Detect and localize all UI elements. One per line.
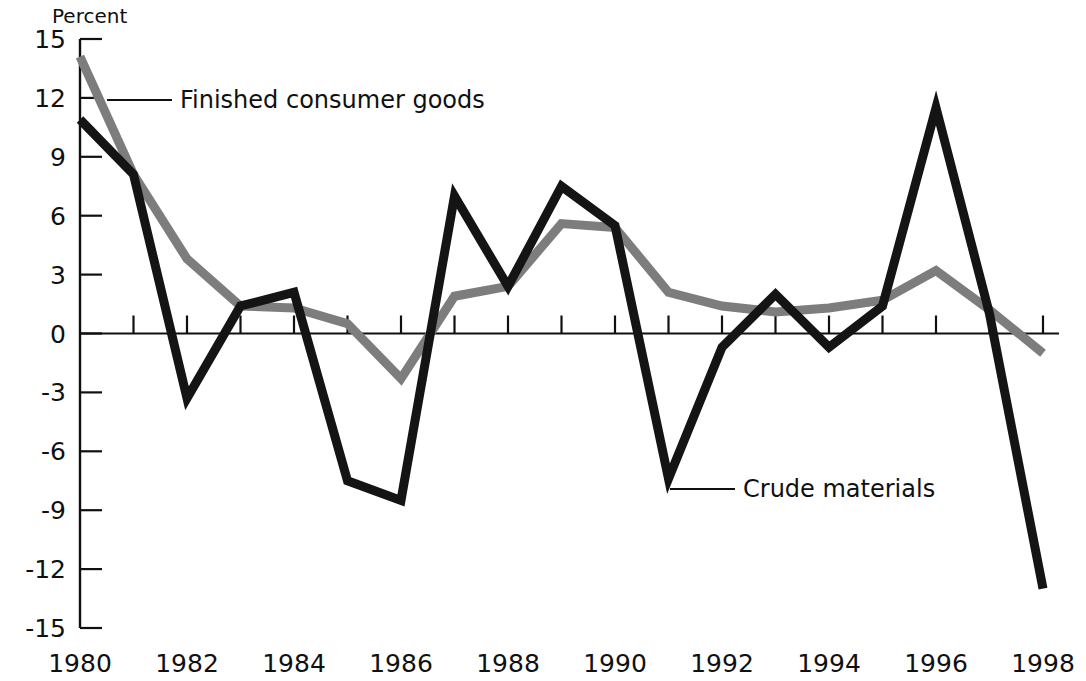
x-tick-label-1998: 1998 <box>1011 649 1075 678</box>
x-tick-label-1986: 1986 <box>369 649 433 678</box>
y-axis-unit-label: Percent <box>52 4 127 28</box>
x-tick-label-1990: 1990 <box>583 649 647 678</box>
y-tick-label-0: 0 <box>50 320 66 349</box>
x-axis-ticks <box>134 316 1044 334</box>
y-tick-label--12: -12 <box>25 555 66 584</box>
y-tick-label-3: 3 <box>50 261 66 290</box>
y-tick-label-12: 12 <box>34 84 66 113</box>
chart-root: 15129630-3-6-9-12-15 1980198219841986198… <box>0 0 1086 681</box>
y-tick-label--3: -3 <box>41 378 66 407</box>
line-chart: 15129630-3-6-9-12-15 1980198219841986198… <box>0 0 1086 681</box>
x-tick-label-1982: 1982 <box>155 649 219 678</box>
y-axis-labels: 15129630-3-6-9-12-15 <box>25 25 66 643</box>
series-line-crude-materials <box>80 108 1043 589</box>
x-axis-labels: 1980198219841986198819901992199419961998 <box>48 649 1075 678</box>
y-tick-label--6: -6 <box>41 437 66 466</box>
x-tick-label-1984: 1984 <box>262 649 326 678</box>
y-tick-label-9: 9 <box>50 143 66 172</box>
x-tick-label-1992: 1992 <box>690 649 754 678</box>
annotation-finished-consumer-goods: Finished consumer goods <box>180 86 485 114</box>
y-tick-label--9: -9 <box>41 496 66 525</box>
x-tick-label-1996: 1996 <box>904 649 968 678</box>
x-tick-label-1988: 1988 <box>476 649 540 678</box>
annotation-crude-materials: Crude materials <box>743 475 935 503</box>
y-tick-label-6: 6 <box>50 202 66 231</box>
x-tick-label-1980: 1980 <box>48 649 112 678</box>
y-tick-label-15: 15 <box>34 25 66 54</box>
x-tick-label-1994: 1994 <box>797 649 861 678</box>
y-tick-label--15: -15 <box>25 614 66 643</box>
